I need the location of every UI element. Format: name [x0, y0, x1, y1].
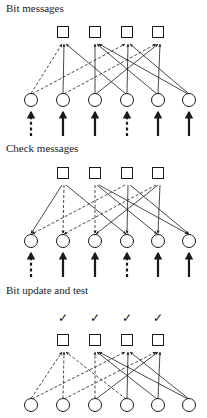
check-node[interactable]: [90, 27, 101, 38]
bit-node[interactable]: [152, 399, 165, 412]
bit-node[interactable]: [152, 94, 165, 107]
check-node[interactable]: [122, 335, 133, 346]
bit-node[interactable]: [121, 399, 134, 412]
figure-background: [0, 0, 207, 418]
bit-node[interactable]: [183, 94, 196, 107]
bit-node[interactable]: [89, 94, 102, 107]
bit-node[interactable]: [152, 235, 165, 248]
check-node[interactable]: [58, 335, 69, 346]
bit-node[interactable]: [25, 94, 38, 107]
bit-node[interactable]: [89, 399, 102, 412]
bit-node[interactable]: [121, 235, 134, 248]
bit-node[interactable]: [25, 235, 38, 248]
bit-node[interactable]: [25, 399, 38, 412]
bit-node[interactable]: [183, 399, 196, 412]
bit-node[interactable]: [121, 94, 134, 107]
bit-node[interactable]: [183, 235, 196, 248]
bit-node[interactable]: [57, 235, 70, 248]
check-node[interactable]: [58, 168, 69, 179]
bit-node[interactable]: [89, 235, 102, 248]
check-node[interactable]: [58, 27, 69, 38]
check-passed-icon: ✓: [58, 311, 68, 325]
check-node[interactable]: [122, 27, 133, 38]
check-node[interactable]: [122, 168, 133, 179]
panel-title-bit-messages: Bit messages: [6, 2, 64, 14]
check-node[interactable]: [153, 168, 164, 179]
panel-title-check-messages: Check messages: [6, 142, 78, 154]
tanner-graph-figure: Bit messages: [0, 0, 207, 418]
check-node[interactable]: [153, 27, 164, 38]
bit-node[interactable]: [57, 399, 70, 412]
check-passed-icon: ✓: [90, 311, 100, 325]
check-passed-icon: ✓: [153, 311, 163, 325]
check-node[interactable]: [90, 335, 101, 346]
check-node[interactable]: [90, 168, 101, 179]
check-node[interactable]: [153, 335, 164, 346]
panel-title-bit-update-and-test: Bit update and test: [6, 284, 88, 296]
bit-node[interactable]: [57, 94, 70, 107]
check-passed-icon: ✓: [122, 311, 132, 325]
